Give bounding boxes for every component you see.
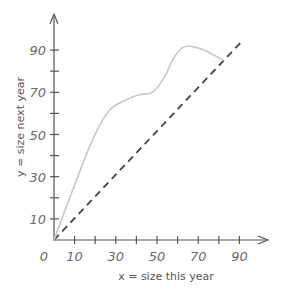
y-tick-label: 50 [29,128,46,143]
y-tick-label: 10 [29,212,46,227]
chart-canvas: 1030507090 1030507090 0 x = size this ye… [0,0,288,293]
x-axis-label: x = size this year [118,270,214,283]
x-tick-label: 90 [231,249,248,264]
growth-curve [54,46,223,240]
x-tick-label: 30 [108,249,125,264]
identity-dashed-line [54,40,244,240]
y-tick-label: 70 [29,85,46,100]
x-tick-labels: 1030507090 [66,249,247,264]
y-tick-label: 90 [29,43,46,58]
y-axis-label: y = size next year [14,77,27,177]
x-tick-label: 70 [190,249,207,264]
x-tick-label: 50 [149,249,166,264]
origin-label: 0 [40,249,48,264]
y-tick-labels: 1030507090 [29,43,46,227]
x-tick-label: 10 [66,249,83,264]
y-tick-label: 30 [29,170,46,185]
